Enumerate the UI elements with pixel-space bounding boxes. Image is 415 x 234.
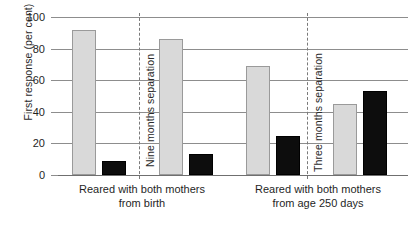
separator-three-months xyxy=(307,13,308,179)
bar-chart: First response (per cent) 100 80 60 40 2… xyxy=(0,0,415,234)
bar-5 xyxy=(246,66,270,175)
group-label-right-line1: Reared with both mothers xyxy=(255,183,381,195)
y-tick-label-0: 0 xyxy=(5,169,45,181)
bar-2 xyxy=(102,161,126,175)
tick-0 xyxy=(51,175,58,176)
tick-100 xyxy=(51,17,58,18)
separator-label-three-months: Three months separation xyxy=(312,53,324,172)
bar-6 xyxy=(276,136,300,176)
plot-area: 100 80 60 40 20 0 Nine months separation… xyxy=(58,17,408,175)
group-label-right: Reared with both mothers from age 250 da… xyxy=(228,182,408,210)
bar-8 xyxy=(363,91,387,175)
tick-40 xyxy=(51,112,58,113)
separator-label-nine-months: Nine months separation xyxy=(144,54,156,167)
y-tick-label-100: 100 xyxy=(5,11,45,23)
group-label-left: Reared with both mothers from birth xyxy=(58,182,226,210)
gridline-60 xyxy=(58,80,408,81)
gridline-100 xyxy=(58,17,408,18)
group-label-left-line2: from birth xyxy=(58,196,226,210)
bar-4 xyxy=(189,154,213,175)
separator-nine-months xyxy=(139,13,140,179)
bar-3 xyxy=(159,39,183,175)
y-tick-label-40: 40 xyxy=(5,106,45,118)
tick-60 xyxy=(51,80,58,81)
tick-80 xyxy=(51,49,58,50)
group-label-left-line1: Reared with both mothers xyxy=(79,183,205,195)
y-tick-label-60: 60 xyxy=(5,74,45,86)
gridline-0 xyxy=(58,175,408,176)
bar-1 xyxy=(72,30,96,175)
y-tick-label-20: 20 xyxy=(5,137,45,149)
gridline-80 xyxy=(58,49,408,50)
y-tick-label-80: 80 xyxy=(5,43,45,55)
group-label-right-line2: from age 250 days xyxy=(228,196,408,210)
tick-20 xyxy=(51,143,58,144)
bar-7 xyxy=(333,104,357,175)
